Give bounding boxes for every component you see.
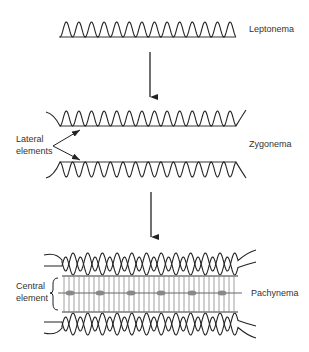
pachynema-label: Pachynema — [251, 288, 299, 299]
lateral-elements-label-line1: Lateral — [16, 134, 44, 145]
zygonema-chromosomes — [46, 110, 246, 178]
zygonema-label: Zygonema — [249, 139, 292, 150]
central-element-brace — [50, 278, 58, 310]
synaptonemal-complex-diagram: Leptonema Zygonema Pachynema Lateral ele… — [0, 0, 309, 352]
lateral-element-pointers — [53, 130, 80, 160]
leptonema-label: Leptonema — [249, 24, 294, 35]
lateral-elements-label-line2: elements — [16, 146, 53, 157]
central-element-label-line2: element — [16, 293, 48, 304]
central-element-label-line1: Central — [16, 281, 45, 292]
leptonema-chromosome — [59, 22, 236, 37]
pachynema-complex — [44, 250, 256, 338]
